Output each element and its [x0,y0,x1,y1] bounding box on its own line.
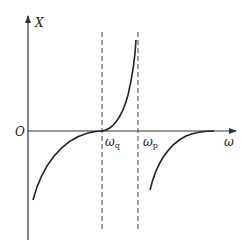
omega-q-symbol: ω [105,135,115,149]
omega-p-symbol: ω [143,135,153,149]
curve-branch-2 [150,131,214,190]
omega-p-label: ωp [143,136,158,150]
omega-q-label: ωq [105,136,120,150]
omega-q-subscript: q [115,141,120,150]
curve-branch-1 [33,40,136,200]
origin-label: O [15,126,25,138]
omega-p-subscript: p [153,141,158,150]
x-axis-label: ω [224,136,234,148]
diagram-canvas [0,0,251,252]
y-axis-label: X [35,17,44,29]
reactance-diagram: X O ωq ωp ω [0,0,251,252]
